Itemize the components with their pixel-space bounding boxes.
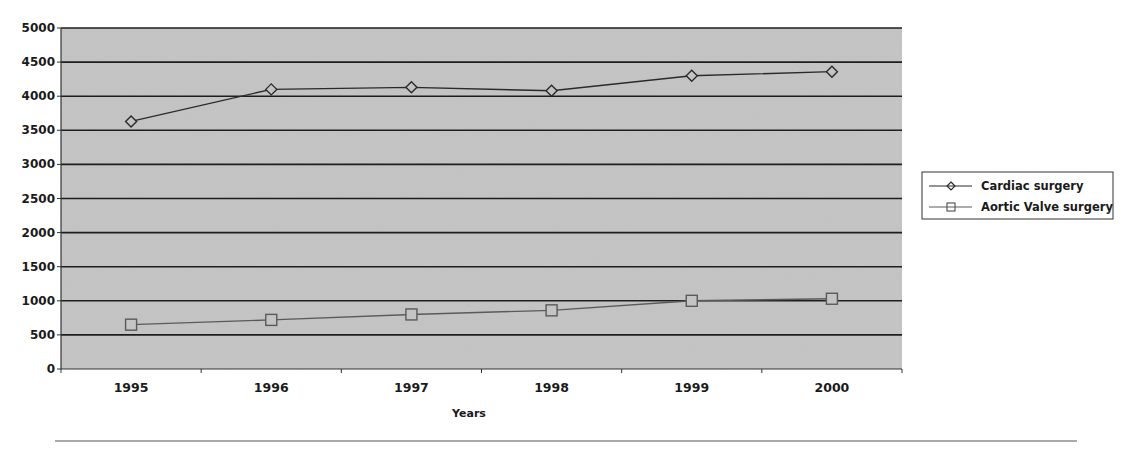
y-tick-label: 0 [47,362,55,376]
y-tick-label: 3500 [22,123,55,137]
chart-canvas: 0500100015002000250030003500400045005000… [0,0,1128,454]
y-tick-label: 2500 [22,192,55,206]
square-marker-icon [266,314,277,325]
square-marker-icon [546,305,557,316]
legend-label-aortic: Aortic Valve surgery [981,200,1113,214]
x-tick-label: 1998 [534,380,569,395]
y-tick-label: 500 [30,328,55,342]
y-tick-label: 1500 [22,260,55,274]
legend-label-cardiac: Cardiac surgery [981,179,1084,193]
square-marker-icon [406,309,417,320]
x-tick-label: 1997 [394,380,429,395]
square-marker-icon [126,319,137,330]
x-axis-label: Years [451,407,486,420]
y-tick-label: 1000 [22,294,55,308]
y-tick-label: 5000 [22,21,55,35]
x-tick-label: 1995 [114,380,149,395]
x-axis-ticks: 199519961997199819992000 [61,369,902,395]
y-tick-label: 4000 [22,89,55,103]
legend: Cardiac surgery Aortic Valve surgery [922,172,1113,219]
y-tick-label: 4500 [22,55,55,69]
x-tick-label: 1996 [254,380,289,395]
y-tick-label: 2000 [22,226,55,240]
square-marker-icon [686,295,697,306]
line-chart: 0500100015002000250030003500400045005000… [0,0,1128,454]
x-tick-label: 1999 [674,380,709,395]
y-axis-ticks: 0500100015002000250030003500400045005000 [22,21,61,376]
square-marker-icon [826,293,837,304]
y-tick-label: 3000 [22,157,55,171]
x-tick-label: 2000 [815,380,850,395]
